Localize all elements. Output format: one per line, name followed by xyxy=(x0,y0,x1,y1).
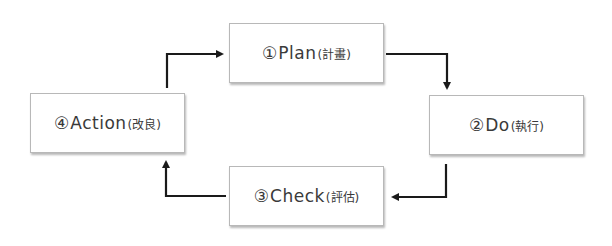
step-number: ③ xyxy=(254,186,269,206)
step-check-label: ③ Check (評估) xyxy=(254,186,359,206)
step-number: ① xyxy=(262,43,277,63)
arrow-plan-to-do xyxy=(386,54,447,88)
step-name: Action xyxy=(70,113,126,133)
step-jp: (執行) xyxy=(511,117,544,134)
step-do-box: ② Do (執行) xyxy=(429,95,584,155)
step-jp: (評估) xyxy=(326,188,359,205)
step-action-label: ④ Action (改良) xyxy=(54,113,161,133)
step-check-box: ③ Check (評估) xyxy=(229,166,384,226)
step-name: Check xyxy=(270,186,325,206)
step-plan-box: ① Plan (計畫) xyxy=(229,23,384,83)
step-number: ② xyxy=(469,115,484,135)
arrow-action-to-plan xyxy=(167,54,222,88)
arrow-do-to-check xyxy=(393,164,446,197)
step-name: Plan xyxy=(278,43,316,63)
step-do-label: ② Do (執行) xyxy=(469,115,544,135)
step-jp: (改良) xyxy=(128,115,161,132)
step-name: Do xyxy=(485,115,510,135)
step-jp: (計畫) xyxy=(318,45,351,62)
arrow-check-to-action xyxy=(166,162,226,196)
step-number: ④ xyxy=(54,113,69,133)
step-plan-label: ① Plan (計畫) xyxy=(262,43,351,63)
step-action-box: ④ Action (改良) xyxy=(30,93,185,153)
